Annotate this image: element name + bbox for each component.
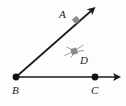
point-label-c: C: [91, 85, 98, 96]
point-label-d: D: [80, 55, 88, 66]
angle-diagram-figure: A B C D: [0, 0, 126, 106]
point-label-a: A: [59, 9, 66, 20]
point-label-b: B: [12, 85, 19, 96]
vertex-dot-b: [13, 74, 20, 81]
point-dot-c: [92, 74, 99, 81]
